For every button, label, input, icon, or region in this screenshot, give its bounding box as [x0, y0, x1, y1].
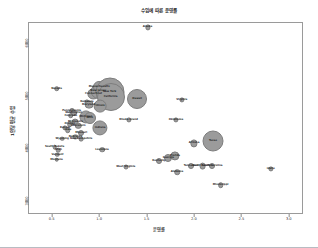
data-point-label: Texas — [209, 140, 217, 143]
y-tick-label: 4000 — [25, 144, 29, 153]
data-point-label: Vermont — [51, 153, 63, 156]
x-tick-label: 1.0 — [96, 217, 102, 221]
y-tick-label: 6000 — [25, 38, 29, 47]
data-point-label: Rhode Island — [119, 118, 137, 121]
data-point-label: Kentucky — [152, 159, 165, 162]
data-point-label: Wisconsin — [71, 125, 85, 128]
data-point-label: Oklahoma — [169, 118, 183, 121]
data-point-label: Ohio — [86, 116, 93, 119]
data-point-label: Indiana — [95, 127, 106, 130]
data-point-label: South Carolina — [202, 165, 223, 168]
data-point-label: Alaska — [143, 26, 152, 29]
data-point-label: California — [104, 95, 118, 98]
data-point-label: Wyoming — [56, 137, 69, 140]
plot-area: AlaskaNevadaConnecticutNew JerseyMassach… — [28, 22, 303, 214]
x-tick-label: 3.0 — [286, 217, 292, 221]
data-point-label: Massachusetts — [89, 86, 110, 89]
data-point-label: Maryland — [82, 103, 95, 106]
chart-figure: 수입에 따른 운영률 AlaskaNevadaConnecticutNew Je… — [0, 0, 318, 247]
y-axis-label: 1인당 평균 수입 — [9, 71, 15, 171]
y-tick-label: 5000 — [25, 91, 29, 100]
x-tick-label: 2.5 — [239, 217, 245, 221]
data-point-label: Montana — [50, 158, 62, 161]
x-tick-label: 0.5 — [49, 217, 55, 221]
x-axis-label: 운영률 — [0, 226, 318, 232]
data-point-label: Arizona — [189, 142, 200, 145]
data-point-label: Hawaii — [132, 98, 142, 101]
data-point-label: Iowa — [65, 129, 72, 132]
data-point-label: West Virginia — [116, 166, 135, 169]
data-point-label: Idaho — [267, 168, 275, 171]
data-point-label: Connecticut — [85, 93, 102, 96]
data-point-label: Mississippi — [213, 184, 228, 187]
data-point-label: Virginia — [176, 98, 187, 101]
x-tick-label: 2.0 — [191, 217, 197, 221]
data-point-label: Alabama — [171, 171, 183, 174]
data-point-label: Illinois — [95, 105, 104, 108]
data-point-label: Nevada — [51, 87, 62, 90]
x-tick-label: 1.5 — [144, 217, 150, 221]
data-point-label: Colorado — [64, 114, 77, 117]
data-point-label: Louisiana — [95, 148, 109, 151]
chart-title: 수입에 따른 운영률 — [0, 7, 318, 13]
data-point-label: New Hampshire — [70, 137, 92, 140]
y-tick-label: 3000 — [25, 196, 29, 205]
